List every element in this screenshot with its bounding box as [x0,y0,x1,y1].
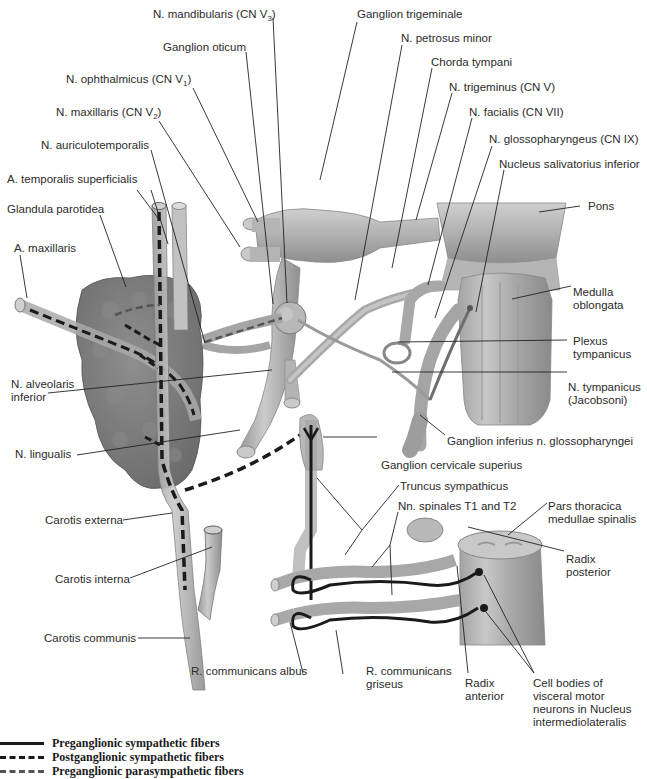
label-ganglion-trigeminale: Ganglion trigeminale [357,8,462,21]
label-truncus-sympathicus: Truncus sympathicus [400,480,508,493]
label-n-facialis: N. facialis (CN VII) [469,106,564,119]
label-pars-thoracica: Pars thoracicamedullae spinalis [548,500,636,526]
label-radix-anterior: Radixanterior [465,677,504,703]
label-a-maxillaris: A. maxillaris [14,242,76,255]
dashed-line-icon [0,756,44,759]
label-n-trigeminus: N. trigeminus (CN V) [449,81,555,94]
label-n-maxillaris: N. maxillaris (CN V2) [56,106,161,123]
label-cell-bodies: Cell bodies ofvisceral motorneurons in N… [533,677,631,729]
legend-item-postganglionic-sympathetic: Postganglionic sympathetic fibers [0,750,300,764]
label-ganglion-inferius: Ganglion inferius n. glossopharyngei [447,435,633,448]
cell-body-dot [475,568,483,576]
label-n-mandibularis: N. mandibularis (CN V3) [153,8,276,25]
trigeminal-complex [241,209,440,263]
label-carotis-externa: Carotis externa [45,514,123,527]
temporal-vein [172,203,188,331]
label-ganglion-cervicale-superius: Ganglion cervicale superius [381,459,522,472]
carotis-interna [198,526,222,620]
cell-body-dot [480,604,488,612]
label-n-glossopharyngeus: N. glossopharyngeus (CN IX) [489,133,639,146]
label-plexus-tympanicus: Plexustympanicus [573,335,631,361]
label-carotis-interna: Carotis interna [55,573,130,586]
label-carotis-communis: Carotis communis [44,632,136,645]
label-n-alveolaris-inferior: N. alveolarisinferior [11,378,74,404]
label-r-communicans-griseus: R. communicansgriseus [366,665,452,691]
medulla-oblongata [458,273,552,425]
mandibular-branches [237,258,420,458]
label-n-ophthalmicus: N. ophthalmicus (CN V1) [66,73,191,90]
label-glandula-parotidea: Glandula parotidea [7,203,104,216]
pars-thoracica [458,531,545,645]
gray-dashed-line-icon [0,770,44,773]
label-n-tympanicus: N. tympanicus(Jacobsoni) [568,381,641,407]
label-n-auriculotemporalis: N. auriculotemporalis [41,139,149,152]
label-a-temporalis-superficialis: A. temporalis superficialis [7,173,137,186]
legend-item-preganglionic-sympathetic: Preganglionic sympathetic fibers [0,736,300,750]
label-n-petrosus-minor: N. petrosus minor [401,32,492,45]
label-ganglion-oticum: Ganglion oticum [163,41,246,54]
label-pons: Pons [588,200,614,213]
legend-item-preganglionic-parasympathetic: Preganglionic parasympathetic fibers [0,764,300,778]
solid-line-icon [0,742,44,745]
nn-spinales [271,518,460,626]
legend: Preganglionic sympathetic fibers Postgan… [0,736,300,778]
label-chorda-tympani: Chorda tympani [431,56,512,69]
label-r-communicans-albus: R. communicans albus [191,665,307,678]
label-nucleus-salivatorius-inferior: Nucleus salivatorius inferior [499,158,640,171]
label-radix-posterior: Radixposterior [566,553,611,579]
label-nn-spinales: Nn. spinales T1 and T2 [398,500,516,513]
label-n-lingualis: N. lingualis [15,448,71,461]
facial-glossopharyngeal [298,286,473,450]
label-medulla-oblongata: Medullaoblongata [573,286,624,312]
